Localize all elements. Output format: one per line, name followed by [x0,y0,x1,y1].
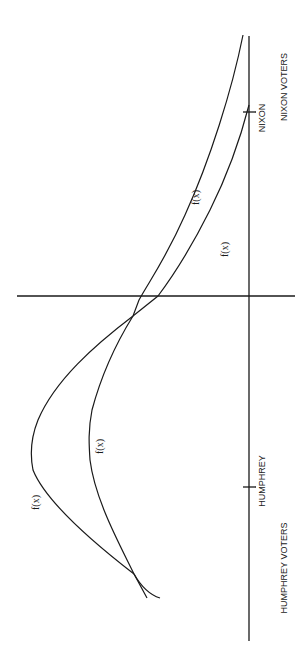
humphrey-tick-label: HUMPHREY [257,455,267,507]
humphrey-voters-label: HUMPHREY VOTERS [279,523,289,614]
curve-label-narrow-right: f(x) [219,242,231,257]
distribution-chart: f(x) f(x) f(x) f(x) NIXON HUMPHREY NIXON… [0,0,308,664]
curve-label-wide-left: f(x) [94,439,106,454]
narrow-distribution-curve [31,105,249,598]
nixon-voters-label: NIXON VOTERS [279,53,289,121]
nixon-tick-label: NIXON [257,104,267,133]
curve-label-wide-right: f(x) [190,190,202,205]
wide-distribution-curve [89,35,243,598]
curve-label-narrow-left: f(x) [30,495,42,510]
